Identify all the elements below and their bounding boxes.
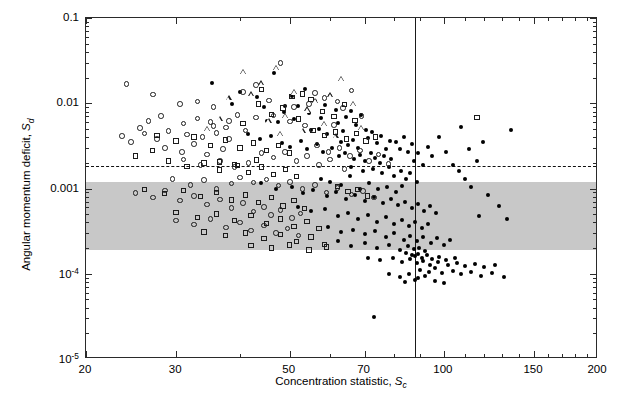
y-minor-tick-right	[593, 129, 596, 130]
y-minor-tick-right	[593, 192, 596, 193]
triangle-inner-fill	[350, 102, 356, 107]
y-minor-tick-right	[593, 293, 596, 294]
data-point-open-square	[342, 102, 347, 107]
data-point-filled-circle	[358, 153, 362, 157]
data-point-open-square	[269, 245, 274, 250]
y-minor-tick-right	[593, 248, 596, 249]
data-point-filled-circle	[262, 105, 266, 109]
data-point-open-circle	[204, 152, 210, 158]
data-point-filled-circle	[299, 139, 303, 143]
y-tick-mantissa: 10	[59, 353, 72, 365]
data-point-open-square	[259, 164, 264, 169]
data-point-filled-circle	[481, 140, 485, 144]
data-point-open-triangle	[304, 106, 310, 111]
y-minor-tick-right	[593, 107, 596, 108]
y-minor-tick	[86, 233, 89, 234]
data-point-filled-circle	[351, 138, 355, 142]
data-point-filled-circle	[290, 185, 294, 189]
y-minor-tick-right	[593, 137, 596, 138]
solid-reference-line	[415, 18, 416, 357]
y-minor-tick	[86, 293, 89, 294]
data-point-open-circle	[124, 81, 130, 87]
data-point-open-circle	[349, 88, 355, 94]
y-axis-symbol: Sd	[20, 118, 32, 130]
data-point-filled-circle	[469, 270, 473, 274]
data-point-filled-circle	[442, 281, 446, 285]
data-point-filled-circle	[375, 220, 379, 224]
data-point-open-circle	[177, 101, 183, 107]
data-point-open-triangle	[240, 69, 246, 74]
y-minor-tick	[86, 308, 89, 309]
data-point-filled-circle	[364, 128, 368, 132]
x-tick-label: 50	[282, 363, 295, 375]
data-point-filled-circle	[423, 274, 427, 278]
data-point-open-square	[150, 148, 155, 153]
data-point-filled-circle	[416, 202, 420, 206]
data-point-open-square	[310, 128, 315, 133]
y-minor-tick-right	[593, 214, 596, 215]
data-point-open-triangle	[277, 131, 283, 136]
data-point-filled-circle	[370, 130, 374, 134]
data-point-open-circle	[211, 123, 217, 129]
data-point-open-square	[474, 115, 479, 120]
data-point-open-circle	[237, 175, 243, 181]
data-point-filled-circle	[455, 261, 459, 265]
x-minor-tick-top	[575, 18, 576, 21]
data-point-open-triangle	[333, 133, 339, 138]
data-point-filled-circle	[479, 274, 483, 278]
data-point-open-square	[235, 163, 240, 168]
data-point-filled-circle	[410, 206, 414, 210]
x-minor-tick	[519, 354, 520, 357]
data-point-open-circle	[162, 145, 168, 151]
data-point-open-square	[229, 197, 234, 202]
data-point-open-circle	[266, 98, 272, 104]
data-point-filled-circle	[457, 169, 461, 173]
triangle-inner-fill	[304, 108, 310, 113]
data-point-open-square	[296, 116, 301, 121]
data-point-open-square	[302, 206, 307, 211]
data-point-filled-circle	[459, 125, 463, 129]
y-minor-tick-right	[593, 233, 596, 234]
y-minor-tick	[86, 107, 89, 108]
data-point-filled-circle	[402, 135, 406, 139]
y-major-tick-right	[590, 274, 596, 275]
triangle-inner-fill	[321, 122, 327, 127]
y-minor-tick	[86, 287, 89, 288]
data-point-filled-circle	[339, 140, 343, 144]
data-point-filled-circle	[502, 275, 506, 279]
y-major-tick-right	[590, 18, 596, 19]
data-point-filled-circle	[486, 193, 490, 197]
data-point-open-circle	[128, 139, 134, 145]
data-point-filled-circle	[482, 265, 486, 269]
y-minor-tick-right	[593, 197, 596, 198]
data-point-filled-circle	[378, 161, 382, 165]
data-point-open-square	[271, 172, 276, 177]
data-point-open-circle	[268, 212, 274, 218]
data-point-filled-circle	[403, 280, 407, 284]
data-point-open-triangle	[258, 80, 264, 85]
data-point-filled-circle	[459, 272, 463, 276]
data-point-open-square	[365, 193, 370, 198]
data-point-filled-circle	[398, 248, 402, 252]
y-minor-tick-right	[593, 26, 596, 27]
data-point-filled-circle	[463, 264, 467, 268]
data-point-open-square	[243, 192, 248, 197]
data-point-filled-circle	[361, 169, 365, 173]
y-minor-tick	[86, 163, 89, 164]
data-point-open-square	[280, 203, 285, 208]
data-point-filled-circle	[258, 137, 262, 141]
data-point-open-circle	[142, 131, 148, 137]
data-point-filled-circle	[346, 143, 350, 147]
data-point-filled-circle	[269, 134, 273, 138]
y-minor-tick	[86, 202, 89, 203]
data-point-open-square	[300, 91, 305, 96]
data-point-open-square	[248, 213, 253, 218]
data-point-filled-circle	[343, 151, 347, 155]
data-point-open-triangle	[248, 91, 254, 96]
data-point-open-circle	[150, 195, 156, 201]
data-point-open-circle	[294, 158, 300, 164]
data-point-filled-circle	[453, 256, 457, 260]
data-point-open-triangle	[321, 121, 327, 126]
data-point-filled-circle	[339, 230, 343, 234]
data-point-open-triangle	[338, 76, 344, 81]
